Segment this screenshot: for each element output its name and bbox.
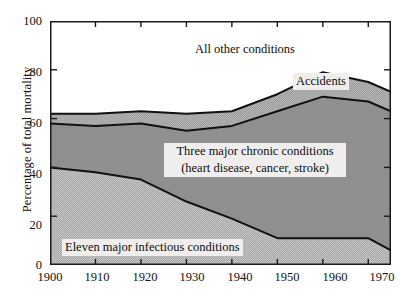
x-tick-label-1910: 1910: [74, 271, 120, 284]
x-tick-label-1900: 1900: [27, 271, 73, 284]
y-tick-label-100: 100: [8, 15, 42, 28]
y-tick-label-0: 0: [8, 259, 42, 272]
x-tick-label-1960: 1960: [312, 271, 358, 284]
y-tick-label-80: 80: [8, 66, 42, 79]
x-tick-label-1930: 1930: [169, 271, 215, 284]
y-tick-label-60: 60: [8, 117, 42, 130]
chart-figure: Percentage of total mortality 100 80 60 …: [0, 0, 406, 292]
y-tick-label-40: 40: [8, 168, 42, 181]
x-tick-label-1970: 1970: [359, 271, 405, 284]
x-tick-label-1920: 1920: [122, 271, 168, 284]
label-accidents: Accidents: [293, 73, 349, 90]
x-tick-label-1950: 1950: [264, 271, 310, 284]
label-chronic-conditions-line2: (heart disease, cancer, stroke): [164, 160, 346, 177]
label-infectious-conditions: Eleven major infectious conditions: [62, 239, 243, 256]
x-tick-label-1940: 1940: [217, 271, 263, 284]
plot-area: All other conditions Accidents Three maj…: [50, 21, 391, 265]
label-all-other-conditions: All other conditions: [195, 42, 295, 57]
label-chronic-conditions-line1: Three major chronic conditions: [164, 143, 346, 160]
y-tick-label-20: 20: [8, 219, 42, 232]
